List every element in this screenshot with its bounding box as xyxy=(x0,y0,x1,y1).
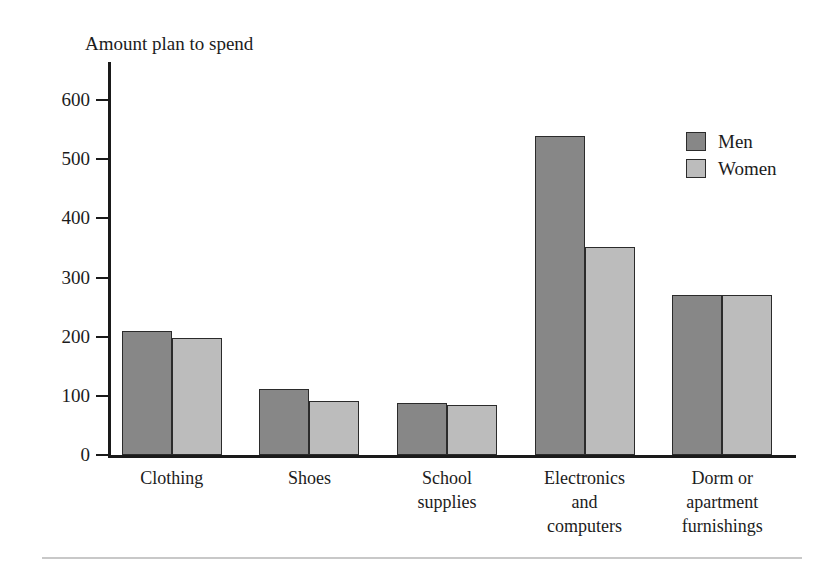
y-axis-tick-label-wrap: 300 xyxy=(20,268,90,287)
y-axis-tick-label: 400 xyxy=(32,208,90,227)
bar-men-clothing xyxy=(122,331,172,455)
x-axis-label-line: Shoes xyxy=(229,466,389,490)
y-axis-tick-label: 200 xyxy=(32,327,90,346)
bar-women-electronics-and-computers xyxy=(585,247,635,455)
x-axis-label-shoes: Shoes xyxy=(229,466,389,490)
y-axis-tick-label: 300 xyxy=(32,268,90,287)
legend-item-men: Men xyxy=(686,128,777,155)
x-axis-line xyxy=(108,455,796,458)
plot-area xyxy=(108,62,796,455)
bar-men-school-supplies xyxy=(397,403,447,455)
bar-women-shoes xyxy=(309,401,359,455)
legend-label-women: Women xyxy=(718,159,777,178)
y-axis-tick-label-wrap: 500 xyxy=(20,149,90,168)
x-axis-label-line: Clothing xyxy=(92,466,252,490)
bar-women-dorm-or-apartment-furnishings xyxy=(722,295,772,455)
bar-men-electronics-and-computers xyxy=(535,136,585,456)
x-axis-label-clothing: Clothing xyxy=(92,466,252,490)
x-axis-label-electronics-and-computers: Electronicsandcomputers xyxy=(505,466,665,538)
x-axis-label-line: supplies xyxy=(367,490,527,514)
y-axis-tick-label: 600 xyxy=(32,90,90,109)
bar-men-shoes xyxy=(259,389,309,455)
x-axis-label-school-supplies: Schoolsupplies xyxy=(367,466,527,514)
x-axis-label-line: computers xyxy=(505,514,665,538)
chart-legend: MenWomen xyxy=(686,128,777,182)
y-axis-tick-label-wrap: 100 xyxy=(20,386,90,405)
bar-women-school-supplies xyxy=(447,405,497,455)
legend-label-men: Men xyxy=(718,132,753,151)
chart-title: Amount plan to spend xyxy=(85,33,253,55)
footer-divider xyxy=(42,557,802,559)
y-axis-tick-label: 100 xyxy=(32,386,90,405)
x-axis-label-line: Dorm or xyxy=(642,466,802,490)
y-axis-tick-label-wrap: 600 xyxy=(20,90,90,109)
x-axis-label-line: Electronics xyxy=(505,466,665,490)
x-axis-label-line: apartment xyxy=(642,490,802,514)
legend-swatch-men xyxy=(686,132,706,151)
y-axis-tick-label-wrap: 400 xyxy=(20,208,90,227)
legend-swatch-women xyxy=(686,159,706,178)
legend-item-women: Women xyxy=(686,155,777,182)
bar-men-dorm-or-apartment-furnishings xyxy=(672,295,722,455)
x-axis-label-dorm-or-apartment-furnishings: Dorm orapartmentfurnishings xyxy=(642,466,802,538)
y-axis-tick-label: 0 xyxy=(32,445,90,464)
bar-women-clothing xyxy=(172,338,222,455)
y-axis-tick-label-wrap: 200 xyxy=(20,327,90,346)
y-axis-tick-label: 500 xyxy=(32,149,90,168)
y-axis-tick-label-wrap: 0 xyxy=(20,445,90,464)
x-axis-label-line: School xyxy=(367,466,527,490)
x-axis-label-line: and xyxy=(505,490,665,514)
x-axis-label-line: furnishings xyxy=(642,514,802,538)
bar-chart-figure: Amount plan to spend 0100200300400500600… xyxy=(0,0,831,571)
